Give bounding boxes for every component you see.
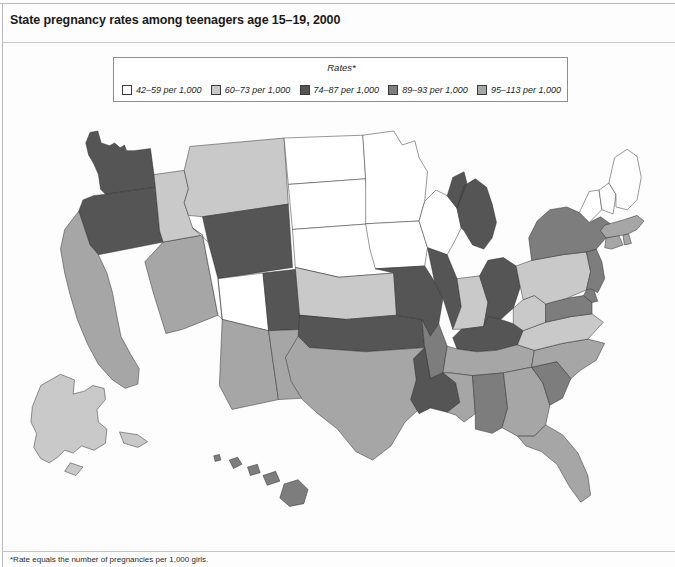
- state-mt[interactable]: Montana: [184, 138, 288, 217]
- legend-label-b2: 60–73 per 1,000: [225, 85, 291, 95]
- us-states-svg: WashingtonOregonCaliforniaNevadaIdahoMon…: [0, 104, 675, 544]
- state-ny[interactable]: New York: [529, 207, 611, 260]
- legend-item-b1: 42–59 per 1,000: [122, 85, 202, 95]
- choropleth-map: WashingtonOregonCaliforniaNevadaIdahoMon…: [0, 104, 675, 544]
- legend-item-b2: 60–73 per 1,000: [211, 85, 291, 95]
- figure-title: State pregnancy rates among teenagers ag…: [10, 13, 340, 27]
- state-ma[interactable]: Massachusetts: [600, 215, 644, 238]
- state-tx[interactable]: Texas: [285, 336, 430, 460]
- legend-item-list: 42–59 per 1,00060–73 per 1,00074–87 per …: [114, 81, 569, 99]
- legend-swatch-b2: [211, 85, 221, 95]
- state-fl[interactable]: Florida: [518, 425, 591, 502]
- figure-footnote: *Rate equals the number of pregnancies p…: [10, 555, 208, 564]
- bottom-rule: [2, 551, 675, 552]
- legend-swatch-b1: [122, 85, 132, 95]
- legend-label-b5: 95–113 per 1,000: [491, 85, 561, 95]
- state-wy[interactable]: Wyoming: [203, 204, 293, 279]
- state-or[interactable]: Oregon: [79, 187, 163, 255]
- legend-swatch-b4: [388, 85, 398, 95]
- state-ri[interactable]: Rhode Island: [623, 234, 631, 245]
- map-figure-page: State pregnancy rates among teenagers ag…: [0, 0, 675, 567]
- state-wa[interactable]: Washington: [86, 131, 156, 194]
- state-ak[interactable]: Alaska: [31, 374, 148, 475]
- legend-label-b3: 74–87 per 1,000: [314, 85, 380, 95]
- state-mn[interactable]: Minnesota: [363, 131, 428, 224]
- state-ia[interactable]: Iowa: [366, 221, 428, 269]
- legend-item-b5: 95–113 per 1,000: [477, 85, 561, 95]
- legend-heading: Rates*: [114, 62, 569, 73]
- top-rule: [0, 3, 675, 4]
- legend-swatch-b3: [300, 85, 310, 95]
- state-sd[interactable]: South Dakota: [288, 179, 370, 230]
- legend-label-b4: 89–93 per 1,000: [402, 85, 468, 95]
- legend-item-b4: 89–93 per 1,000: [388, 85, 468, 95]
- state-al[interactable]: Alabama: [473, 373, 508, 433]
- map-legend: Rates* 42–59 per 1,00060–73 per 1,00074–…: [113, 57, 568, 102]
- state-nd[interactable]: North Dakota: [284, 135, 366, 184]
- state-ok[interactable]: Oklahoma: [298, 315, 425, 352]
- legend-swatch-b5: [477, 85, 487, 95]
- title-divider: [2, 42, 675, 43]
- state-hi[interactable]: Hawaii: [214, 454, 308, 506]
- legend-label-b1: 42–59 per 1,000: [136, 85, 202, 95]
- legend-item-b3: 74–87 per 1,000: [300, 85, 380, 95]
